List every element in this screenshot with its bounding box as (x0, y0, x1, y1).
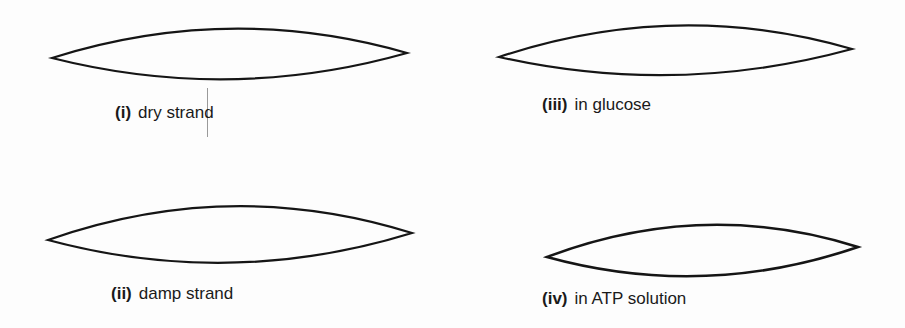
caption-text: in ATP solution (575, 289, 687, 308)
caption-numeral: (ii) (111, 284, 132, 303)
caption-text: in glucose (575, 95, 652, 114)
strand-shape-atp (547, 225, 858, 276)
caption-text: damp strand (139, 284, 234, 303)
strand-shapes (0, 0, 905, 328)
caption-in-glucose: (iii)in glucose (542, 95, 651, 115)
strand-shape-dry (52, 29, 407, 80)
caption-numeral: (iv) (542, 289, 568, 308)
caption-numeral: (iii) (542, 95, 568, 114)
strand-shape-glucose (499, 25, 852, 75)
caption-numeral: (i) (115, 103, 131, 122)
caption-damp-strand: (ii)damp strand (111, 284, 233, 304)
caption-text: dry strand (138, 103, 214, 122)
caption-dry-strand: (i)dry strand (115, 103, 214, 123)
caption-in-atp-solution: (iv)in ATP solution (542, 289, 686, 309)
strand-shape-damp (48, 206, 412, 263)
